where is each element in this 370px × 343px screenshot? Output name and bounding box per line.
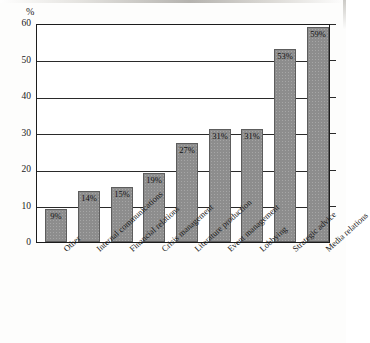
bar: 53% <box>274 49 296 242</box>
y-axis-tick-label: 40 <box>6 92 31 102</box>
bar-value-label: 31% <box>210 132 230 141</box>
y-axis-tick-label: 50 <box>6 56 31 66</box>
bar-value-label: 31% <box>242 132 262 141</box>
bar-value-label: 14% <box>79 194 99 203</box>
y-axis-tick-label: 10 <box>6 202 31 212</box>
y-axis-tick-label: 60 <box>6 19 31 29</box>
bar-value-label: 19% <box>144 176 164 185</box>
y-axis-tick-right <box>330 170 336 171</box>
bar-value-label: 9% <box>46 212 66 221</box>
y-axis-tick-right <box>330 206 336 207</box>
plot-area: 9%14%15%19%27%31%31%53%59% <box>36 24 330 243</box>
y-axis-tick-right <box>330 60 336 61</box>
y-axis-tick-right <box>330 24 336 25</box>
y-axis-tick-right <box>330 97 336 98</box>
bar-value-label: 53% <box>275 52 295 61</box>
y-axis-tick-label: 20 <box>6 165 31 175</box>
bar-value-label: 59% <box>308 30 328 39</box>
bar-value-label: 15% <box>112 190 132 199</box>
y-axis-tick-label: 30 <box>6 129 31 139</box>
bar-value-label: 27% <box>177 146 197 155</box>
bar: 59% <box>307 27 329 242</box>
y-axis-tick-label: 0 <box>6 238 31 248</box>
y-axis-tick-right <box>330 133 336 134</box>
bar: 14% <box>78 191 100 242</box>
bar: 9% <box>45 209 67 242</box>
y-axis-unit-label: % <box>26 6 35 17</box>
